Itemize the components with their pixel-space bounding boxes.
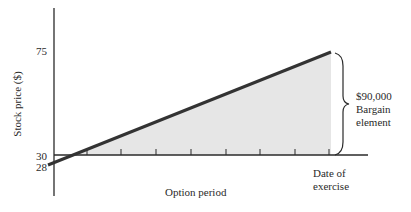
bargain-label-line1: Bargain — [356, 103, 391, 116]
date-of-exercise-line1: Date of — [313, 167, 346, 180]
y-tick-28: 28 — [25, 161, 47, 173]
x-axis-label: Option period — [165, 186, 226, 199]
y-axis-label: Stock price ($) — [11, 71, 23, 136]
bargain-amount: $90,000 — [356, 90, 392, 103]
date-of-exercise-line2: exercise — [313, 180, 349, 193]
chart-canvas — [0, 0, 411, 212]
bargain-brace — [335, 53, 349, 155]
bargain-label-line2: element — [356, 116, 391, 129]
y-tick-75: 75 — [25, 45, 47, 57]
